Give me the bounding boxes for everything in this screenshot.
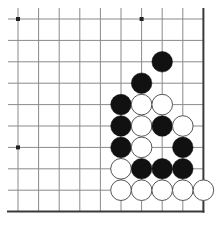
star-point [16, 145, 20, 149]
white-stone [152, 94, 173, 115]
board-edges [7, 8, 204, 213]
grid-lines [8, 8, 203, 212]
black-stone [152, 159, 173, 180]
white-stone [173, 180, 194, 201]
black-stone [131, 159, 152, 180]
black-stone [173, 137, 194, 158]
white-stone [193, 180, 214, 201]
white-stone [131, 137, 152, 158]
black-stone [111, 137, 132, 158]
black-stone [131, 73, 152, 94]
white-stone [131, 94, 152, 115]
black-stone [111, 116, 132, 137]
black-stone [152, 116, 173, 137]
black-stone [173, 159, 194, 180]
black-stone [111, 94, 132, 115]
white-stone [111, 159, 132, 180]
white-stone [131, 116, 152, 137]
white-stone [131, 180, 152, 201]
white-stone [152, 180, 173, 201]
star-point [140, 17, 144, 21]
black-stone [152, 52, 173, 73]
white-stone [173, 116, 194, 137]
white-stone [111, 180, 132, 201]
star-point [16, 17, 20, 21]
go-board-svg [0, 0, 223, 229]
